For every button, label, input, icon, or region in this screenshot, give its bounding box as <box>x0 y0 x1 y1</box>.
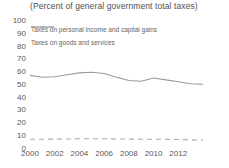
y-tick-label: 100 <box>0 16 26 25</box>
y-tick-label: 90 <box>0 29 26 38</box>
solid-line-marker-icon <box>31 23 54 31</box>
y-tick-label: 70 <box>0 54 26 63</box>
y-tick-label: 80 <box>0 42 26 51</box>
y-tick-label: 60 <box>0 67 26 76</box>
legend: Taxes on personal income and capital gai… <box>31 23 157 49</box>
x-tick-label: 2000 <box>17 149 43 158</box>
tax-share-line-chart: (Percent of general government total tax… <box>0 0 229 168</box>
x-tick-label: 2012 <box>165 149 191 158</box>
x-tick-label: 2008 <box>116 149 142 158</box>
y-tick-label: 40 <box>0 93 26 102</box>
x-tick-label: 2004 <box>66 149 92 158</box>
legend-item-goods-taxes: Taxes on goods and services <box>31 36 157 48</box>
x-tick-label: 2002 <box>42 149 68 158</box>
y-tick-label: 50 <box>0 80 26 89</box>
y-tick-label: 10 <box>0 131 26 140</box>
series-line-income-taxes <box>30 139 203 140</box>
x-tick-label: 2010 <box>141 149 167 158</box>
chart-title: (Percent of general government total tax… <box>30 1 198 12</box>
x-tick-label: 2006 <box>91 149 117 158</box>
series-line-goods-taxes <box>30 72 203 84</box>
legend-label-goods-taxes: Taxes on goods and services <box>31 39 115 46</box>
y-tick-label: 20 <box>0 118 26 127</box>
y-tick-label: 30 <box>0 105 26 114</box>
